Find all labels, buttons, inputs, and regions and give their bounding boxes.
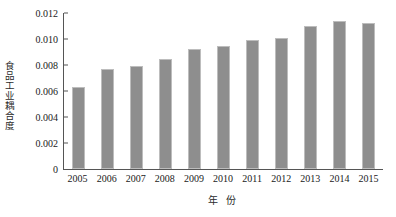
bar: [217, 46, 230, 170]
x-tick-label: 2005: [63, 173, 92, 184]
x-tick-label: 2009: [179, 173, 208, 184]
bar-slot: [209, 13, 238, 169]
x-tick-label: 2006: [92, 173, 121, 184]
bar-slot: [93, 13, 122, 169]
x-tick-label: 2011: [238, 173, 267, 184]
y-tick-label: 0.010: [36, 34, 65, 45]
bar: [362, 23, 375, 169]
plot-area: 00.0020.0040.0060.0080.0100.012: [63, 13, 383, 170]
bar-slot: [354, 13, 383, 169]
bar-chart-figure: 食品工业耦合度 00.0020.0040.0060.0080.0100.012 …: [0, 0, 396, 217]
x-axis-title: 年 份: [63, 192, 383, 207]
bar-slot: [238, 13, 267, 169]
bar-slot: [180, 13, 209, 169]
x-axis-ticks: 2005200620072008200920102011201220132014…: [63, 173, 383, 189]
bar: [159, 59, 172, 170]
x-tick-label: 2010: [208, 173, 237, 184]
bar: [72, 87, 85, 169]
bar: [275, 38, 288, 169]
bar: [333, 21, 346, 169]
bar-slot: [151, 13, 180, 169]
bar: [304, 26, 317, 169]
x-tick-label: 2012: [267, 173, 296, 184]
y-tick-label: 0.006: [36, 86, 65, 97]
bar-slot: [122, 13, 151, 169]
bar: [130, 66, 143, 169]
bar: [188, 49, 201, 169]
bar-slot: [64, 13, 93, 169]
bar: [246, 40, 259, 169]
x-tick-label: 2015: [354, 173, 383, 184]
x-tick-label: 2013: [296, 173, 325, 184]
y-tick-label: 0.012: [36, 8, 65, 19]
x-tick-label: 2014: [325, 173, 354, 184]
x-tick-label: 2007: [121, 173, 150, 184]
x-tick-label: 2008: [150, 173, 179, 184]
bar-slot: [325, 13, 354, 169]
bar-slot: [296, 13, 325, 169]
y-tick-label: 0.004: [36, 112, 65, 123]
bar: [101, 69, 114, 169]
y-axis-title: 食品工业耦合度: [2, 40, 16, 152]
y-tick-label: 0.002: [36, 138, 65, 149]
y-tick-label: 0.008: [36, 60, 65, 71]
bar-slot: [267, 13, 296, 169]
bar-series: [64, 13, 383, 169]
